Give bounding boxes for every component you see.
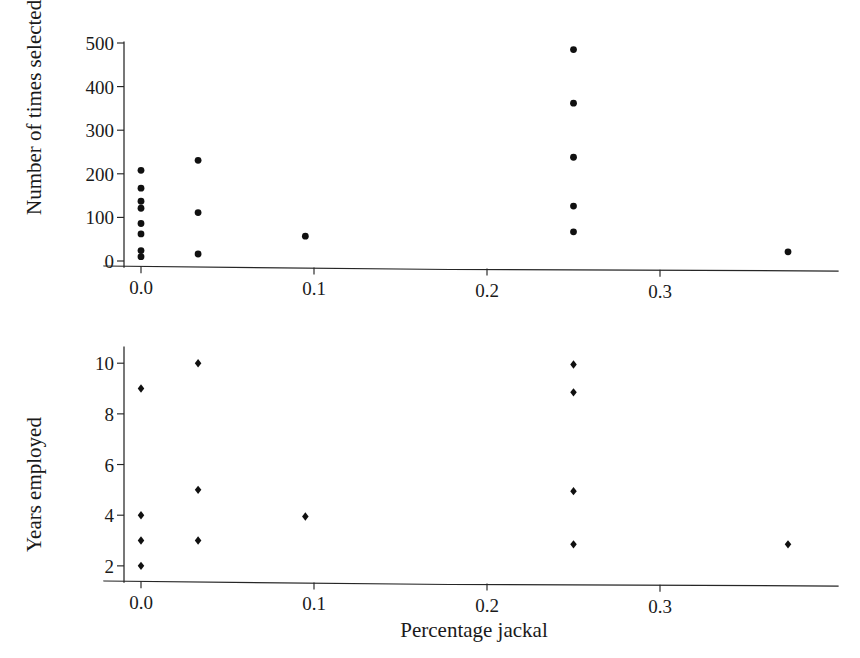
data-point	[302, 233, 309, 240]
bottom-panel-y-tick-label: 10	[36, 354, 114, 373]
data-point	[785, 248, 792, 255]
data-point	[138, 247, 145, 254]
data-point	[785, 540, 792, 548]
data-point	[138, 220, 145, 227]
data-point	[570, 487, 577, 495]
data-point	[195, 251, 202, 258]
top-panel-y-tick-label: 400	[36, 77, 114, 96]
data-point	[570, 100, 577, 107]
data-point	[570, 46, 577, 53]
top-panel-x-tick-label: 0.0	[129, 278, 153, 297]
bottom-panel-y-tick-label: 2	[36, 556, 114, 575]
bottom-panel-y-tick-label: 8	[36, 404, 114, 423]
bottom-panel-y-tick-label: 4	[36, 506, 114, 525]
bottom-panel-y-tick-label: 6	[36, 455, 114, 474]
data-point	[138, 253, 145, 260]
top-panel-y-tick-label: 300	[36, 121, 114, 140]
top-panel-y-tick-label: 0	[36, 252, 114, 271]
data-point	[138, 185, 145, 192]
data-point	[195, 209, 202, 216]
data-point	[195, 536, 202, 544]
data-point	[570, 540, 577, 548]
bottom-panel: 246810 0.00.10.20.3 Years employed Perce…	[0, 320, 860, 658]
bottom-panel-y-axis-title: Years employed	[22, 417, 47, 552]
bottom-panel-x-axis-line	[104, 581, 838, 586]
scatter-plot-figure: 0100200300400500 0.00.10.20.3 Number of …	[0, 0, 860, 658]
bottom-panel-x-axis-title: Percentage jackal	[400, 618, 548, 643]
top-panel-y-tick-label: 100	[36, 208, 114, 227]
bottom-panel-x-tick-label: 0.3	[648, 597, 672, 616]
data-point	[138, 511, 145, 519]
top-panel-x-tick-label: 0.2	[475, 281, 499, 300]
top-panel-y-axis-title: Number of times selected	[22, 0, 47, 215]
data-point	[302, 512, 309, 520]
data-point	[570, 203, 577, 210]
data-point	[570, 360, 577, 368]
data-point	[138, 198, 145, 205]
data-point	[138, 384, 145, 392]
top-panel-x-tick-label: 0.3	[648, 282, 672, 301]
data-point	[195, 359, 202, 367]
top-panel-x-axis-line	[104, 266, 838, 271]
data-point	[570, 228, 577, 235]
data-point	[195, 157, 202, 164]
data-point	[195, 486, 202, 494]
top-panel-y-tick-label: 500	[36, 34, 114, 53]
top-panel: 0100200300400500 0.00.10.20.3 Number of …	[0, 0, 860, 330]
data-point	[570, 154, 577, 161]
data-point	[138, 205, 145, 212]
bottom-panel-x-tick-label: 0.0	[129, 593, 153, 612]
top-panel-x-tick-label: 0.1	[302, 279, 326, 298]
data-point	[138, 562, 145, 570]
top-panel-y-tick-label: 200	[36, 164, 114, 183]
bottom-panel-x-tick-label: 0.1	[302, 594, 326, 613]
bottom-panel-x-tick-label: 0.2	[475, 596, 499, 615]
data-point	[138, 231, 145, 238]
data-point	[570, 388, 577, 396]
data-point	[138, 167, 145, 174]
data-point	[138, 536, 145, 544]
